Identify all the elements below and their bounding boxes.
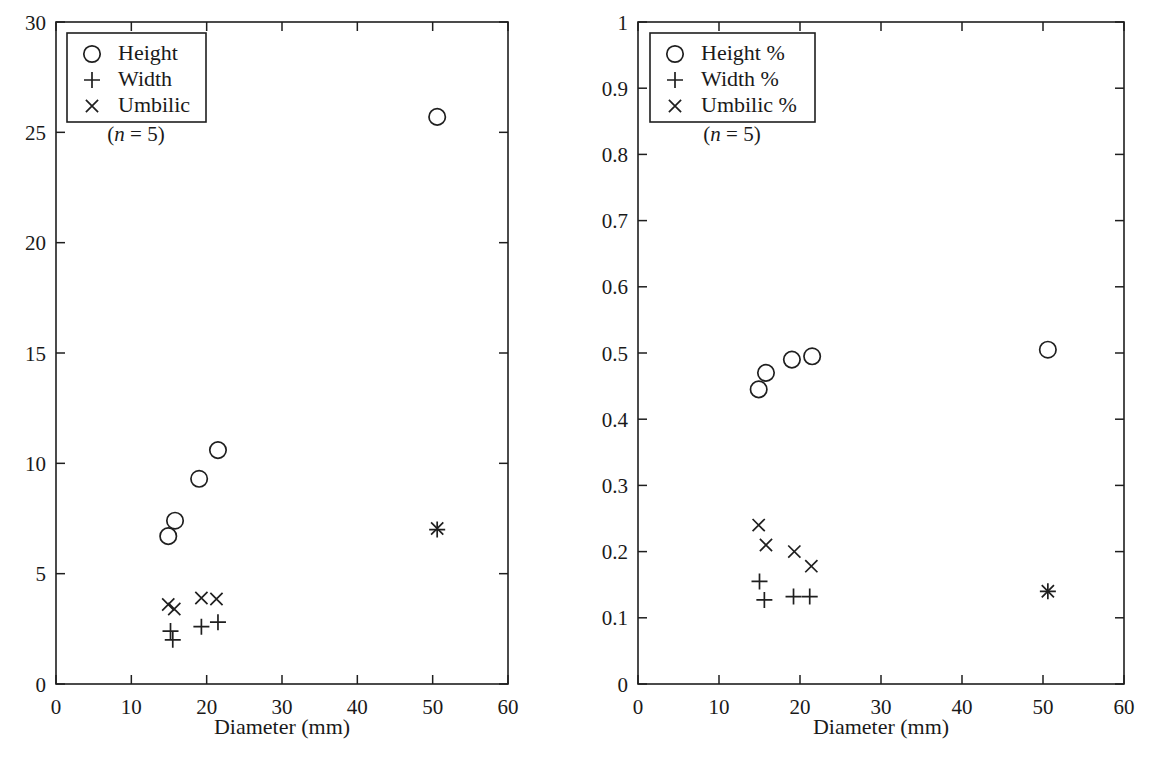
x-tick-label: 40 bbox=[952, 695, 973, 719]
y-tick-label: 0.6 bbox=[602, 275, 628, 299]
left-data-points bbox=[160, 109, 445, 648]
x-tick-label: 0 bbox=[51, 695, 62, 719]
y-tick-label: 1 bbox=[618, 11, 629, 35]
x-tick-label: 0 bbox=[633, 695, 644, 719]
x-tick-label: 60 bbox=[1114, 695, 1135, 719]
legend-label: Width % bbox=[701, 66, 779, 91]
data-point-cross bbox=[805, 560, 817, 572]
legend-label: Width bbox=[118, 66, 172, 91]
x-tick-label: 50 bbox=[1033, 695, 1054, 719]
right-data-points bbox=[750, 341, 1056, 607]
data-point-cross bbox=[210, 593, 222, 605]
data-point-plus bbox=[756, 592, 772, 608]
data-point-circle bbox=[784, 351, 800, 367]
data-point-plus bbox=[752, 573, 768, 589]
x-tick-label: 50 bbox=[422, 695, 443, 719]
y-tick-label: 5 bbox=[36, 562, 47, 586]
left-x-axis-label: Diameter (mm) bbox=[214, 714, 350, 739]
x-tick-label: 10 bbox=[121, 695, 142, 719]
y-tick-label: 0.3 bbox=[602, 474, 628, 498]
data-point-cross bbox=[168, 603, 180, 615]
data-point-circle bbox=[429, 109, 445, 125]
legend-label: Umbilic bbox=[118, 92, 190, 117]
data-point-circle bbox=[1040, 341, 1056, 357]
right-plot-svg: 010203040506000.10.20.30.40.50.60.70.80.… bbox=[574, 0, 1149, 740]
data-point-cross bbox=[788, 546, 800, 558]
data-point-circle bbox=[210, 442, 226, 458]
y-tick-label: 0.5 bbox=[602, 342, 628, 366]
x-tick-label: 20 bbox=[790, 695, 811, 719]
data-point-plus bbox=[165, 632, 181, 648]
chart-panel-left: 0102030405060051015202530 HeightWidthUmb… bbox=[0, 0, 575, 767]
y-tick-label: 0 bbox=[618, 673, 629, 697]
right-x-axis-label: Diameter (mm) bbox=[813, 714, 949, 739]
y-tick-label: 10 bbox=[25, 452, 46, 476]
data-point-circle bbox=[804, 348, 820, 364]
y-tick-label: 25 bbox=[25, 121, 46, 145]
legend-label: Umbilic % bbox=[701, 92, 797, 117]
data-point-plus bbox=[786, 589, 802, 605]
y-tick-label: 0.4 bbox=[602, 408, 629, 432]
y-tick-label: 0.7 bbox=[602, 209, 628, 233]
y-tick-label: 0.2 bbox=[602, 540, 628, 564]
data-point-circle bbox=[758, 365, 774, 381]
data-point-cross bbox=[162, 598, 174, 610]
data-point-circle bbox=[167, 513, 183, 529]
data-point-circle bbox=[160, 528, 176, 544]
cut-off-caption-strip bbox=[0, 752, 1149, 767]
data-point-plus bbox=[210, 614, 226, 630]
y-tick-label: 0 bbox=[36, 673, 47, 697]
data-point-circle bbox=[750, 381, 766, 397]
data-point-cross bbox=[753, 519, 765, 531]
left-sample-size-annotation: (n = 5) bbox=[107, 122, 164, 146]
y-tick-label: 20 bbox=[25, 231, 46, 255]
chart-panel-right: 010203040506000.10.20.30.40.50.60.70.80.… bbox=[574, 0, 1149, 767]
legend-label: Height % bbox=[701, 40, 785, 65]
data-point-plus bbox=[193, 619, 209, 635]
x-tick-label: 10 bbox=[709, 695, 730, 719]
legend-label: Height bbox=[118, 40, 178, 65]
data-point-circle bbox=[191, 471, 207, 487]
data-point-plus bbox=[802, 589, 818, 605]
x-tick-label: 60 bbox=[498, 695, 519, 719]
data-point-cross bbox=[760, 539, 772, 551]
y-tick-label: 0.8 bbox=[602, 143, 628, 167]
y-tick-label: 30 bbox=[25, 11, 46, 35]
y-tick-label: 15 bbox=[25, 342, 46, 366]
data-point-cross bbox=[195, 592, 207, 604]
left-plot-svg: 0102030405060051015202530 HeightWidthUmb… bbox=[0, 0, 575, 740]
y-tick-label: 0.1 bbox=[602, 606, 628, 630]
data-point-plus bbox=[163, 623, 179, 639]
right-sample-size-annotation: (n = 5) bbox=[703, 122, 760, 146]
y-tick-label: 0.9 bbox=[602, 77, 628, 101]
scatter-figure: 0102030405060051015202530 HeightWidthUmb… bbox=[0, 0, 1149, 767]
